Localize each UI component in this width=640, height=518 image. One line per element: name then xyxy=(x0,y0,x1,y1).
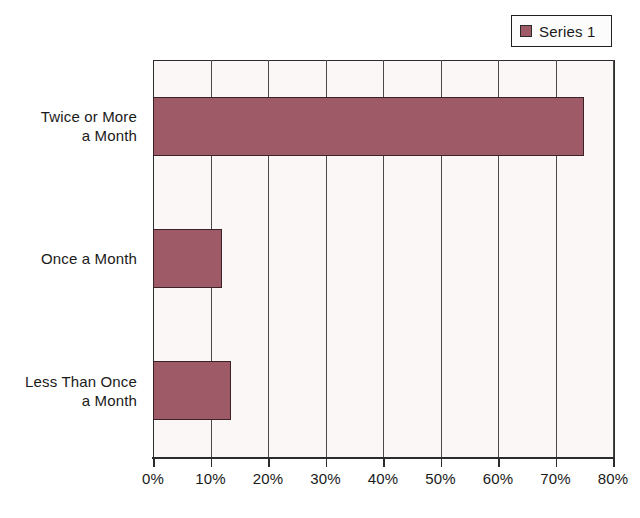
x-tick-label: 70% xyxy=(540,470,571,487)
gridline xyxy=(613,60,614,457)
x-tick-mark xyxy=(441,459,443,467)
x-tick-mark xyxy=(268,459,270,467)
bar xyxy=(153,97,584,156)
x-tick-label: 10% xyxy=(195,470,226,487)
x-tick-label: 80% xyxy=(598,470,629,487)
legend-label-series-1: Series 1 xyxy=(539,24,596,39)
y-category-label: Once a Month xyxy=(41,249,137,268)
legend-swatch-series-1 xyxy=(520,25,532,37)
x-tick-mark xyxy=(498,459,500,467)
x-tick-label: 30% xyxy=(310,470,341,487)
y-category-label: Twice or More a Month xyxy=(41,107,137,145)
chart-legend: Series 1 xyxy=(511,15,612,47)
x-tick-mark xyxy=(326,459,328,467)
x-tick-label: 40% xyxy=(368,470,399,487)
x-tick-mark xyxy=(153,459,155,467)
x-tick-mark xyxy=(556,459,558,467)
x-tick-label: 20% xyxy=(253,470,284,487)
x-tick-mark xyxy=(211,459,213,467)
bar xyxy=(153,361,231,420)
x-tick-label: 0% xyxy=(142,470,164,487)
y-category-label: Less Than Once a Month xyxy=(25,372,137,410)
x-tick-mark xyxy=(613,459,615,467)
bar-chart: 0%10%20%30%40%50%60%70%80% Twice or More… xyxy=(0,0,640,518)
bar xyxy=(153,229,222,288)
x-tick-label: 50% xyxy=(425,470,456,487)
x-tick-mark xyxy=(383,459,385,467)
x-tick-label: 60% xyxy=(483,470,514,487)
